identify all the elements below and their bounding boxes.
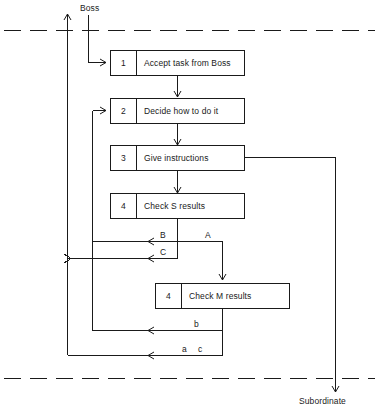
process-box-4-check-s-number: 4 (111, 194, 137, 218)
process-box-4-check-m-number: 4 (156, 284, 182, 308)
process-box-1-label: Accept task from Boss (137, 51, 244, 75)
branch-label-a: A (205, 230, 211, 240)
process-box-3-label: Give instructions (137, 146, 244, 170)
process-box-2[interactable]: 2 Decide how to do it (110, 98, 245, 124)
process-box-2-number: 2 (111, 99, 137, 123)
process-box-4-check-m-label: Check M results (182, 284, 289, 308)
branch-label-b: B (160, 230, 166, 240)
process-box-2-label: Decide how to do it (137, 99, 244, 123)
branch-label-c: C (160, 247, 166, 257)
branch-label-lower-b: b (194, 319, 199, 329)
process-box-3[interactable]: 3 Give instructions (110, 145, 245, 171)
branch-label-lower-c: c (198, 344, 202, 354)
boss-boundary-label: Boss (80, 3, 99, 13)
branch-label-lower-a: a (182, 344, 187, 354)
process-box-4-check-s[interactable]: 4 Check S results (110, 193, 245, 219)
process-box-1[interactable]: 1 Accept task from Boss (110, 50, 245, 76)
process-box-1-number: 1 (111, 51, 137, 75)
process-box-4-check-m[interactable]: 4 Check M results (155, 283, 290, 309)
process-box-4-check-s-label: Check S results (137, 194, 244, 218)
flowchart-diagram: Boss Subordinate 1 Accept task from Boss… (0, 0, 379, 418)
process-box-3-number: 3 (111, 146, 137, 170)
subordinate-boundary-label: Subordinate (299, 396, 346, 406)
